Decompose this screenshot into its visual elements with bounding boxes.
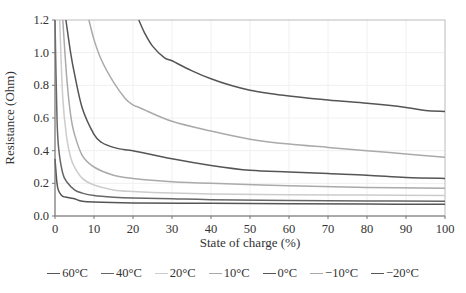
x-tick-label: 40 (205, 222, 218, 236)
x-tick-label: 70 (322, 222, 335, 236)
y-tick-label: 0.6 (33, 111, 49, 125)
series-line (89, 20, 445, 157)
legend: 60°C 40°C 20°C 10°C 0°C −10°C −20°C (0, 263, 466, 283)
x-tick-label: 0 (52, 222, 58, 236)
legend-line-icon (155, 273, 168, 274)
legend-label: −20°C (386, 266, 419, 281)
legend-label: 40°C (116, 266, 142, 281)
y-tick-label: 1.0 (33, 46, 49, 60)
series-line (60, 20, 445, 196)
resistance-vs-soc-chart: 0102030405060708090100 0.00.20.40.60.81.… (0, 0, 466, 293)
x-tick-label: 80 (361, 222, 374, 236)
legend-line-icon (310, 273, 323, 274)
legend-line-icon (101, 273, 114, 274)
legend-line-icon (209, 273, 222, 274)
legend-line-icon (47, 273, 60, 274)
x-tick-label: 30 (166, 222, 179, 236)
y-tick-label: 0.2 (33, 176, 49, 190)
legend-item-20c: 20°C (155, 266, 196, 281)
legend-line-icon (263, 273, 276, 274)
legend-item-10c: 10°C (209, 266, 250, 281)
y-tick-labels: 0.00.20.40.60.81.01.2 (33, 13, 55, 223)
legend-label: 20°C (170, 266, 196, 281)
y-axis-label: Resistance (Ohm) (2, 71, 17, 165)
legend-item-40c: 40°C (101, 266, 142, 281)
legend-label: −10°C (325, 266, 358, 281)
x-tick-label: 90 (400, 222, 413, 236)
legend-line-icon (371, 273, 384, 274)
y-tick-label: 1.2 (33, 13, 49, 27)
legend-label: 60°C (62, 266, 88, 281)
x-tick-labels: 0102030405060708090100 (52, 216, 455, 236)
series-line (66, 20, 445, 178)
x-tick-label: 60 (283, 222, 296, 236)
y-tick-label: 0.4 (33, 144, 49, 158)
series-line (63, 20, 445, 188)
legend-label: 0°C (278, 266, 298, 281)
x-tick-label: 20 (127, 222, 140, 236)
legend-item-0c: 0°C (263, 266, 298, 281)
grid-lines (55, 20, 445, 216)
x-tick-label: 50 (244, 222, 257, 236)
legend-item-60c: 60°C (47, 266, 88, 281)
x-axis-label: State of charge (%) (200, 235, 300, 250)
legend-item-minus10c: −10°C (310, 266, 358, 281)
x-tick-label: 10 (88, 222, 101, 236)
legend-label: 10°C (224, 266, 250, 281)
series-line (139, 20, 445, 112)
y-tick-label: 0.0 (33, 209, 49, 223)
x-tick-label: 100 (436, 222, 455, 236)
y-tick-label: 0.8 (33, 78, 49, 92)
legend-item-minus20c: −20°C (371, 266, 419, 281)
